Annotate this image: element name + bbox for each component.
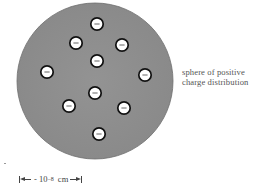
sphere-label-line1: sphere of positive bbox=[182, 67, 248, 77]
electron-top bbox=[91, 18, 103, 30]
electron-upper-right bbox=[116, 39, 128, 51]
electron-bottom bbox=[93, 128, 105, 140]
scale-left-line bbox=[25, 179, 31, 180]
sphere-label-line2: charge distribution bbox=[182, 77, 248, 87]
electron-center-lower bbox=[89, 87, 101, 99]
electron-upper-left bbox=[70, 37, 82, 49]
scale-bar: - 10 −8 cm bbox=[19, 174, 82, 184]
electron-lower-left bbox=[63, 100, 75, 112]
scale-right-end bbox=[81, 176, 82, 183]
atom-diagram bbox=[0, 0, 257, 189]
sphere-label: sphere of positive charge distribution bbox=[182, 67, 248, 87]
scale-exponent: −8 bbox=[47, 176, 53, 182]
electron-right bbox=[139, 69, 151, 81]
electron-left bbox=[41, 66, 53, 78]
stray-mark bbox=[4, 163, 6, 164]
electron-center-upper bbox=[91, 55, 103, 67]
scale-unit: cm bbox=[58, 174, 68, 184]
electron-lower-right bbox=[118, 102, 130, 114]
scale-prefix: - 10 bbox=[34, 174, 47, 184]
